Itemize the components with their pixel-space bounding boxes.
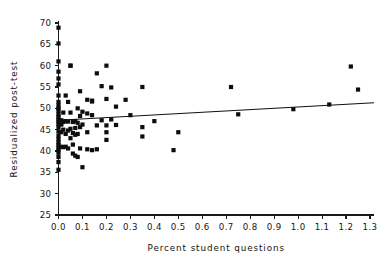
x-tick-label: 1.2: [339, 222, 354, 232]
data-point: [104, 130, 108, 134]
y-tick-label: 70: [40, 18, 52, 28]
x-tick-label: 1.0: [291, 222, 306, 232]
x-tick-label: 1.1: [315, 222, 330, 232]
data-point: [176, 130, 180, 134]
y-axis-title: Residualized post-test: [9, 61, 19, 178]
data-point: [140, 125, 144, 129]
data-point: [90, 148, 94, 152]
x-tick-label: 0.8: [243, 222, 258, 232]
x-tick-label: 0.5: [171, 222, 186, 232]
data-point: [61, 111, 65, 115]
x-tick-label: 0.4: [147, 222, 162, 232]
data-point: [90, 113, 94, 117]
data-point: [100, 84, 104, 88]
scatter-plot-figure: 25303540455055606570 0.00.10.20.30.40.50…: [0, 0, 392, 262]
x-tick-label: 0.0: [51, 222, 66, 232]
data-point: [56, 26, 60, 30]
data-point: [68, 111, 72, 115]
data-point: [104, 123, 108, 127]
data-point: [68, 127, 72, 131]
y-tick-label: 60: [40, 61, 52, 71]
x-axis-group: 0.00.10.20.30.40.50.60.70.80.91.01.11.21…: [51, 215, 377, 232]
data-point: [56, 70, 60, 74]
data-point: [152, 119, 156, 123]
y-tick-label: 35: [40, 167, 52, 177]
data-point: [73, 126, 77, 130]
y-tick-label: 40: [40, 146, 52, 156]
data-point: [61, 128, 65, 132]
data-points: [56, 26, 360, 172]
data-point: [95, 147, 99, 151]
data-point: [56, 41, 60, 45]
data-point: [85, 130, 89, 134]
data-point: [76, 132, 80, 136]
data-point: [56, 160, 60, 164]
data-point: [78, 89, 82, 93]
data-point: [114, 105, 118, 109]
data-point: [236, 112, 240, 116]
data-point: [356, 87, 360, 91]
x-tick-label: 0.1: [75, 222, 90, 232]
data-point: [56, 59, 60, 63]
data-point: [349, 64, 353, 68]
data-point: [90, 99, 94, 103]
data-point: [171, 148, 175, 152]
x-tick-label: 0.3: [123, 222, 138, 232]
y-tick-label: 55: [40, 82, 52, 92]
data-point: [56, 76, 60, 80]
data-point: [80, 110, 84, 114]
data-point: [95, 71, 99, 75]
data-point: [85, 98, 89, 102]
data-point: [80, 122, 84, 126]
data-point: [85, 147, 89, 151]
y-tick-labels: 25303540455055606570: [40, 18, 52, 220]
data-point: [100, 118, 104, 122]
y-tick-label: 30: [40, 189, 52, 199]
data-point: [140, 85, 144, 89]
data-point: [66, 100, 70, 104]
data-point: [56, 100, 60, 104]
x-tick-label: 1.3: [363, 222, 378, 232]
x-tick-labels: 0.00.10.20.30.40.50.60.70.80.91.01.11.21…: [51, 222, 377, 232]
data-point: [114, 123, 118, 127]
data-point: [56, 168, 60, 172]
data-point: [64, 93, 68, 97]
data-point: [109, 85, 113, 89]
data-point: [85, 111, 89, 115]
data-point: [68, 64, 72, 68]
data-point: [76, 155, 80, 159]
x-tick-label: 0.2: [99, 222, 114, 232]
data-point: [104, 64, 108, 68]
data-point: [66, 146, 70, 150]
data-point: [76, 121, 80, 125]
plot-canvas: 25303540455055606570 0.00.10.20.30.40.50…: [0, 0, 392, 262]
data-point: [229, 85, 233, 89]
x-tick-label: 0.6: [195, 222, 210, 232]
y-tick-label: 45: [40, 125, 52, 135]
data-point: [56, 155, 60, 159]
y-tick-label: 50: [40, 103, 52, 113]
data-point: [78, 146, 82, 150]
data-point: [80, 165, 84, 169]
data-point: [327, 102, 331, 106]
data-point: [78, 114, 82, 118]
data-point: [140, 134, 144, 138]
y-tick-label: 65: [40, 39, 52, 49]
data-point: [56, 93, 60, 97]
data-point: [71, 143, 75, 147]
data-point: [56, 82, 60, 86]
x-tick-label: 0.9: [267, 222, 282, 232]
y-axis-group: 25303540455055606570: [40, 18, 59, 220]
x-axis-title: Percent student questions: [148, 243, 285, 253]
regression-line: [59, 103, 375, 120]
data-point: [68, 136, 72, 140]
x-tick-marks: [59, 215, 371, 219]
x-tick-label: 0.7: [219, 222, 234, 232]
data-point: [123, 98, 127, 102]
data-point: [104, 138, 108, 142]
data-point: [95, 123, 99, 127]
y-tick-label: 25: [40, 210, 52, 220]
data-point: [56, 151, 60, 155]
data-point: [104, 97, 108, 101]
data-point: [76, 106, 80, 110]
